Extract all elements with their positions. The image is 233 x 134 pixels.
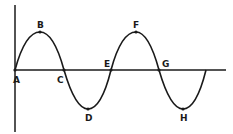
- point-h-marker: [181, 107, 184, 110]
- point-g-marker: [157, 68, 160, 71]
- point-b-marker: [38, 30, 41, 33]
- label-c: C: [57, 75, 64, 85]
- label-e: E: [104, 59, 110, 69]
- point-d-marker: [86, 107, 89, 110]
- point-c-marker: [62, 68, 65, 71]
- point-a-marker: [13, 68, 16, 71]
- label-g: G: [162, 59, 169, 69]
- label-b: B: [37, 20, 44, 30]
- label-f: F: [133, 20, 139, 30]
- point-f-marker: [134, 30, 137, 33]
- label-d: D: [85, 113, 92, 123]
- label-a: A: [13, 75, 20, 85]
- wave-diagram: A B C D E F G H: [0, 0, 233, 134]
- label-h: H: [180, 113, 188, 123]
